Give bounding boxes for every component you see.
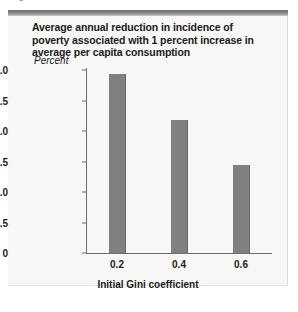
y-axis-tick-mark [82,131,87,132]
y-axis-tick-label: 0 [0,248,8,259]
x-axis-tick-label: 0.6 [234,259,248,270]
figure-card: Average annual reduction in incidence of… [8,10,288,286]
y-axis-tick-label: 0.5 [0,217,8,228]
y-axis-tick-mark [82,222,87,223]
x-axis-tick-label: 0.2 [110,259,124,270]
clipped-caption-text: Figure [10,0,39,1]
y-axis-tick-mark [82,253,87,254]
y-axis-tick-mark [82,192,87,193]
y-axis-tick-label: 1.0 [0,187,8,198]
x-axis-title: Initial Gini coefficient [8,279,288,290]
y-axis-tick-mark [82,161,87,162]
bar [233,165,250,253]
y-axis-tick-label: 3.0 [0,65,8,76]
clipped-caption-strip: Figure [0,0,298,7]
y-axis-tick-label: 2.0 [0,126,8,137]
x-axis-line [86,253,272,254]
bar [109,74,126,253]
y-axis-tick-mark [82,100,87,101]
y-axis-tick-label: 1.5 [0,156,8,167]
bar [171,120,188,253]
plot-area: 00.51.01.52.02.53.00.20.40.6 [8,10,288,286]
y-axis-tick-mark [82,70,87,71]
x-axis-tick-label: 0.4 [172,259,186,270]
y-axis-tick-label: 2.5 [0,95,8,106]
